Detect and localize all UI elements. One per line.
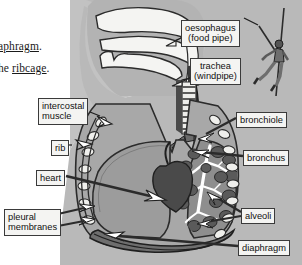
label-bronchus-text: bronchus — [247, 153, 285, 163]
label-heart-text: heart — [40, 173, 61, 183]
label-rib-text: rib — [55, 143, 65, 153]
booktext-line-2-prefix: he — [0, 62, 12, 74]
label-intercostal-muscle: intercostal muscle — [38, 98, 88, 125]
label-trachea-line2: (windpipe) — [194, 71, 237, 82]
booktext-line-2-suffix: . — [47, 62, 50, 74]
booktext-line-1-term: aphragm — [0, 40, 39, 52]
booktext-line-2-term: ribcage — [12, 62, 47, 74]
label-bronchiole: bronchiole — [236, 112, 287, 128]
label-oesophagus: oesophagus (food pipe) — [181, 20, 240, 47]
label-alveoli: alveoli — [241, 208, 275, 224]
label-oesophagus-line2: (food pipe) — [185, 33, 236, 44]
booktext-line-1-period: . — [39, 40, 42, 52]
booktext-line-2: he ribcage. — [0, 62, 50, 74]
label-pleural-line1: pleural — [8, 212, 36, 222]
diagram-page: aphragm. he ribcage. oesophagus (food pi… — [0, 0, 302, 265]
label-rib: rib — [51, 140, 69, 156]
label-diaphragm: diaphragm — [238, 240, 290, 256]
label-intercostal-line1: intercostal — [42, 101, 84, 111]
label-oesophagus-line1: oesophagus — [185, 23, 236, 33]
label-alveoli-text: alveoli — [245, 211, 271, 221]
label-heart: heart — [36, 170, 65, 186]
label-pleural-line2: membranes — [8, 222, 57, 233]
label-bronchiole-text: bronchiole — [240, 115, 283, 125]
label-bronchus: bronchus — [243, 150, 289, 166]
label-diaphragm-text: diaphragm — [242, 243, 286, 253]
label-pleural-membranes: pleural membranes — [4, 209, 61, 236]
label-trachea: trachea (windpipe) — [190, 58, 241, 85]
label-trachea-line1: trachea — [200, 61, 231, 71]
label-intercostal-line2: muscle — [42, 111, 84, 122]
booktext-line-1: aphragm. — [0, 40, 42, 52]
